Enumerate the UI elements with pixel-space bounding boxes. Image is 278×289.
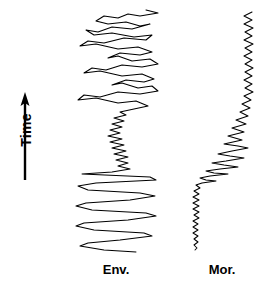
waveform-plot <box>0 0 278 289</box>
figure-container: Time Env. Mor. <box>0 0 278 289</box>
waveform-trace-env <box>76 10 158 252</box>
waveform-trace-mor <box>193 12 253 250</box>
time-axis-label: Time <box>18 104 34 156</box>
trace-label-mor: Mor. <box>192 262 252 277</box>
trace-label-env: Env. <box>86 262 146 277</box>
